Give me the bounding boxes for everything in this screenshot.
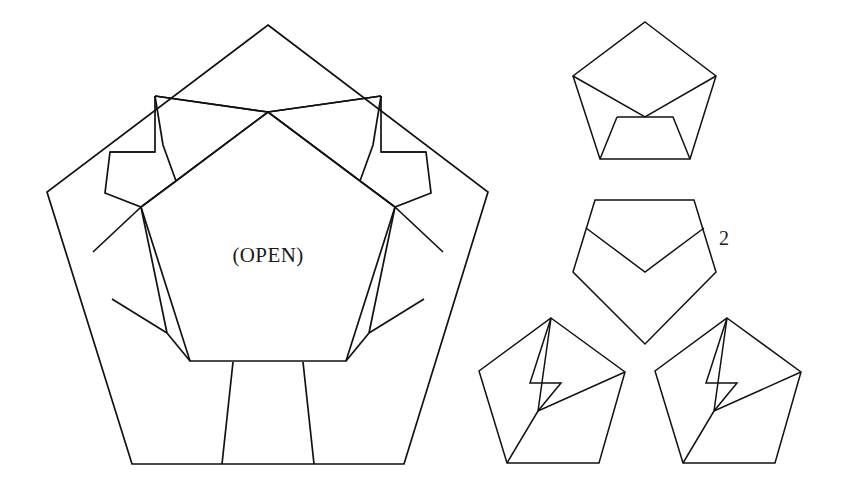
left-lower-leg-crease bbox=[167, 333, 190, 361]
small-br-inner-fold-diagonal bbox=[714, 318, 801, 411]
small-middle-fold-v bbox=[586, 228, 704, 272]
right-band-crease-lower bbox=[369, 299, 424, 333]
fold-crease-long-left-to-right bbox=[155, 96, 360, 181]
step-number-label: 2 bbox=[719, 227, 729, 249]
fold-crease-long-right-to-left bbox=[176, 96, 381, 181]
inner-open-pentagon bbox=[141, 112, 395, 361]
small-top-inner-trapezoid-left bbox=[600, 117, 617, 159]
open-region-label: (OPEN) bbox=[232, 243, 303, 267]
small-bl-inner-fold-diagonal bbox=[538, 318, 625, 411]
small-top-outer-pentagon bbox=[573, 22, 716, 159]
fold-crease-apex-left-diagonal bbox=[155, 96, 381, 112]
bottom-tab-right-crease bbox=[303, 362, 314, 464]
right-lower-leg-crease bbox=[346, 333, 369, 361]
pentagon-folding-diagram: (OPEN) 2 bbox=[0, 0, 842, 492]
small-top-fold-v-left bbox=[573, 76, 716, 117]
left-band-crease-upper bbox=[93, 207, 141, 252]
small-pentagon-top-figure bbox=[573, 22, 716, 159]
right-band-edge-inner bbox=[369, 207, 395, 333]
main-large-pentagon-figure: (OPEN) bbox=[47, 25, 488, 464]
small-bl-outer-pentagon bbox=[479, 318, 625, 463]
small-br-outer-pentagon bbox=[655, 318, 801, 463]
left-band-edge-inner bbox=[141, 207, 167, 333]
small-bl-inner-fold bbox=[507, 318, 561, 463]
bottom-tab-left-crease bbox=[222, 362, 233, 464]
small-pentagon-middle-figure: 2 bbox=[573, 200, 729, 344]
small-pentagon-bottom-right-figure bbox=[655, 318, 801, 463]
small-top-inner-trapezoid bbox=[617, 117, 690, 159]
left-band-crease-lower bbox=[112, 299, 167, 333]
small-pentagon-bottom-left-figure bbox=[479, 318, 625, 463]
small-br-inner-fold bbox=[683, 318, 737, 463]
right-band-crease-upper bbox=[395, 207, 443, 252]
